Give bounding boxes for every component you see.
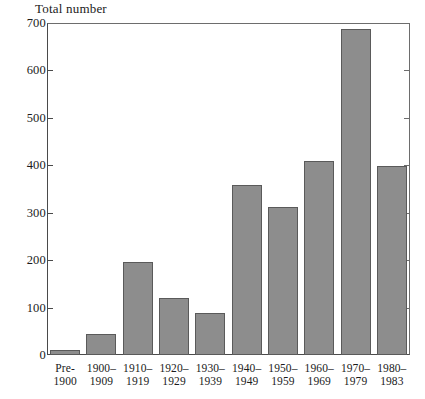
- y-axis-tick: [47, 165, 53, 166]
- y-axis-tick-label: 0: [6, 349, 46, 362]
- y-axis-tick: [47, 308, 53, 309]
- x-axis-tick-label-line1: 1980–: [370, 362, 414, 375]
- y-axis-tick-right: [404, 70, 410, 71]
- y-axis-tick-label: 600: [6, 64, 46, 77]
- y-axis-tick: [47, 260, 53, 261]
- y-axis-tick-label: 200: [6, 254, 46, 267]
- bar: [195, 313, 225, 355]
- y-axis-tick-right: [404, 118, 410, 119]
- bar: [304, 161, 334, 355]
- bar: [232, 185, 262, 355]
- bar: [268, 207, 298, 355]
- y-axis-tick: [47, 213, 53, 214]
- y-axis-tick-label: 300: [6, 207, 46, 220]
- y-axis-tick-label: 100: [6, 302, 46, 315]
- y-axis-tick-label: 400: [6, 159, 46, 172]
- y-axis-tick: [47, 70, 53, 71]
- bar: [159, 298, 189, 355]
- bar: [50, 350, 80, 355]
- y-axis-tick-label: 700: [6, 17, 46, 30]
- bar-chart: Total number 7006005004003002001000 Pre-…: [0, 0, 425, 399]
- bar: [123, 262, 153, 355]
- bar: [377, 166, 407, 355]
- y-axis-tick: [47, 118, 53, 119]
- y-axis-tick-label: 500: [6, 112, 46, 125]
- bar: [86, 334, 116, 355]
- bar: [341, 29, 371, 355]
- chart-title: Total number: [35, 1, 107, 16]
- x-axis-tick-label-line2: 1983: [370, 375, 414, 388]
- x-axis-tick-label: 1980–1983: [370, 362, 414, 388]
